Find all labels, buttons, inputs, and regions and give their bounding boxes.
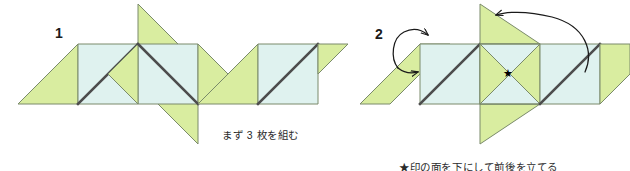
- origami-diagram-illustration: [0, 0, 630, 171]
- caption-step-2: ★印の面を下にして前後を立てる: [399, 161, 558, 171]
- step-number-2: 2: [375, 27, 383, 41]
- diagram-stage: 1 2 ★ まず 3 枚を組む ★印の面を下にして前後を立てる: [0, 0, 630, 171]
- step-number-1: 1: [55, 26, 63, 40]
- star-icon: ★: [503, 68, 513, 79]
- caption-step-1: まず 3 枚を組む: [222, 129, 299, 141]
